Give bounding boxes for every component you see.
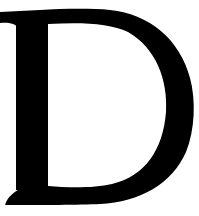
serif-letter-d-glyph (0, 0, 199, 216)
letter-canvas: D (0, 0, 199, 216)
letter-d-bottom-serif (6, 186, 48, 205)
letter-d-stem (16, 22, 48, 190)
